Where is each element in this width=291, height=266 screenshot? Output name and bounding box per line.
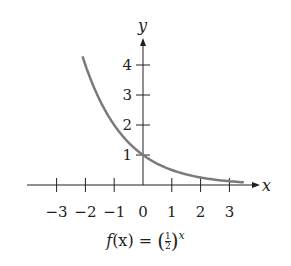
exponential-plot: −3−2−10123 1234 x y (0, 0, 291, 266)
y-tick-label: 2 (122, 116, 132, 134)
x-tick-label: 2 (196, 203, 206, 221)
x-tick-label: −3 (46, 203, 68, 221)
y-tick-label: 4 (122, 56, 132, 74)
x-tick-label: −1 (103, 203, 125, 221)
x-tick-label: 1 (167, 203, 177, 221)
y-tick-label: 3 (122, 86, 132, 104)
x-tick-label: 0 (138, 203, 148, 221)
y-tick-label: 1 (122, 146, 132, 164)
x-tick-label: −2 (74, 203, 96, 221)
caption-arg: (x) = (112, 231, 157, 250)
y-axis-label: y (137, 16, 148, 35)
x-axis-label: x (262, 176, 271, 195)
caption-exponent: x (179, 229, 185, 242)
x-tick-label: 3 (225, 203, 235, 221)
function-curve (83, 56, 244, 182)
y-ticks: 1234 (122, 56, 150, 164)
x-ticks: −3−2−10123 (46, 178, 235, 221)
function-caption: f(x) = (12)x (0, 229, 291, 253)
